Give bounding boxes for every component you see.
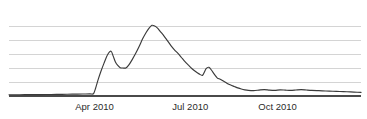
x-tick-label: Apr 2010 bbox=[75, 101, 114, 112]
x-tick-label: Jul 2010 bbox=[172, 101, 208, 112]
gridlines bbox=[9, 26, 361, 82]
x-tick-label: Oct 2010 bbox=[258, 101, 297, 112]
x-axis-tick-labels: Apr 2010Jul 2010Oct 2010 bbox=[75, 101, 297, 112]
trend-chart: Apr 2010Jul 2010Oct 2010 bbox=[0, 0, 367, 119]
chart-canvas: Apr 2010Jul 2010Oct 2010 bbox=[0, 0, 367, 119]
data-series-line bbox=[9, 25, 361, 95]
